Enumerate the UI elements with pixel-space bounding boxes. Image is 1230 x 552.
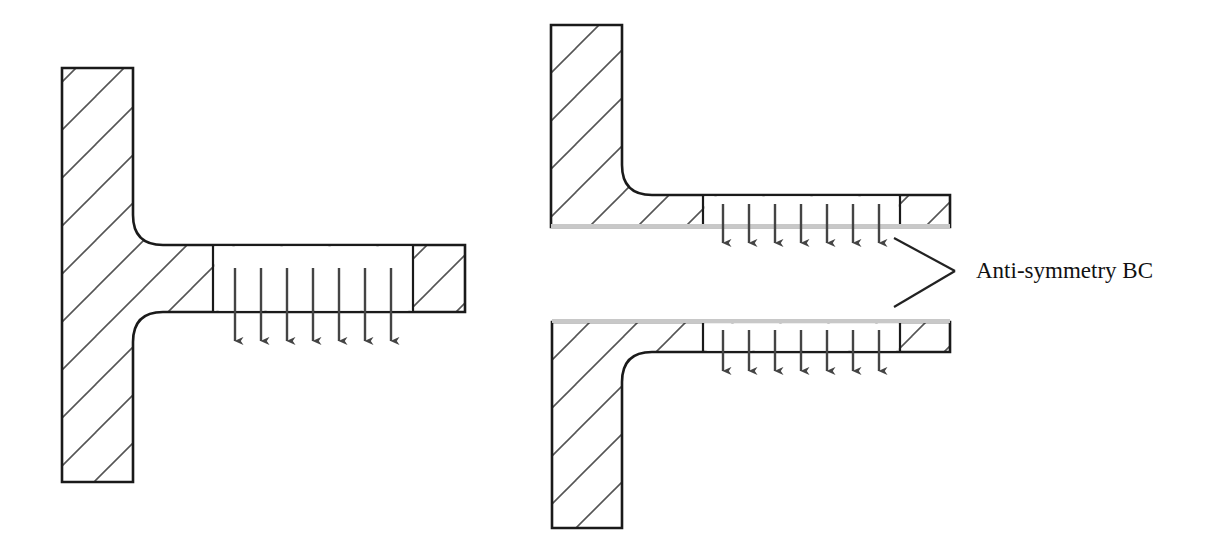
panel-full-model	[50, 55, 490, 505]
leader-line-to-upper-panel	[894, 238, 955, 271]
diagram-canvas: Anti-symmetry BC	[0, 0, 1230, 552]
leader-line-to-lower-panel	[894, 271, 955, 307]
anti-symmetry-annotation: Anti-symmetry BC	[894, 238, 1153, 307]
anti-symmetry-bc-label: Anti-symmetry BC	[976, 258, 1153, 283]
panel-lower-half-model	[540, 312, 965, 540]
technical-diagram: Anti-symmetry BC	[0, 0, 1230, 552]
panel-upper-half-model	[540, 15, 965, 243]
